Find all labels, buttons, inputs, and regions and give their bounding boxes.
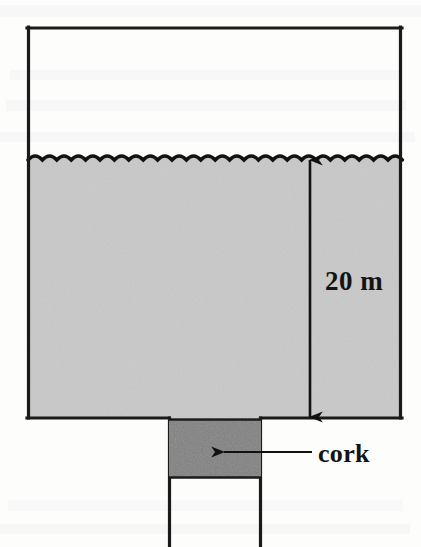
diagram-canvas: 20 m cork bbox=[0, 0, 421, 547]
water-surface-line bbox=[28, 156, 402, 160]
cork-block bbox=[169, 419, 261, 478]
water-tank-diagram: 20 m cork bbox=[0, 0, 421, 547]
cork-label: cork bbox=[318, 439, 370, 468]
depth-label: 20 m bbox=[325, 266, 383, 296]
